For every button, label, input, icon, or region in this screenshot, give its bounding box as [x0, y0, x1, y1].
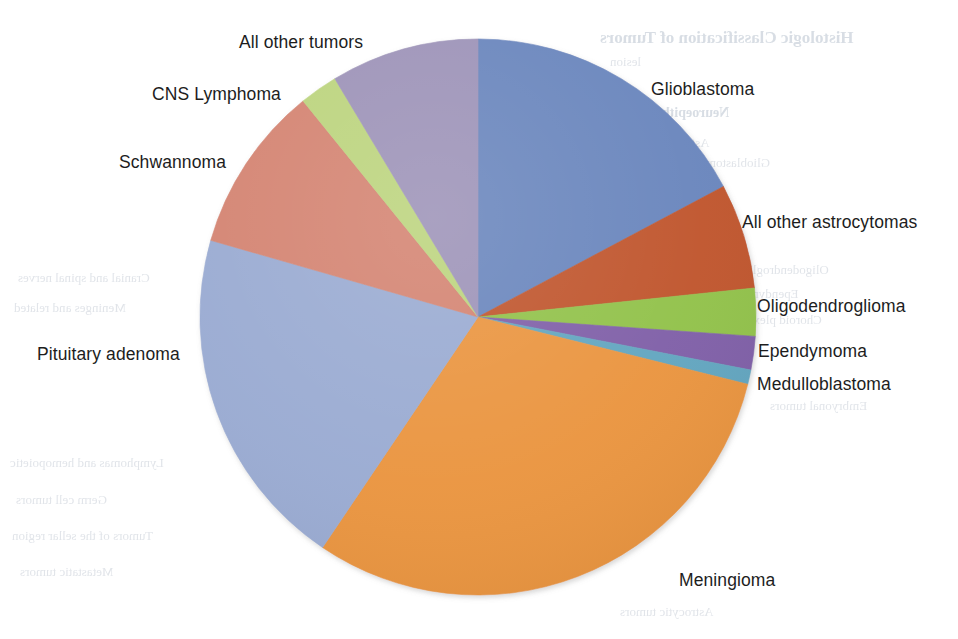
pie-chart: Glioblastoma All other astrocytomas Olig…: [0, 0, 958, 639]
pie-label-all-other-astrocytomas: All other astrocytomas: [742, 212, 917, 233]
pie-label-pituitary-adenoma: Pituitary adenoma: [37, 344, 180, 365]
pie-label-medulloblastoma: Medulloblastoma: [757, 374, 891, 395]
pie-label-cns-lymphoma: CNS Lymphoma: [152, 84, 281, 105]
pie-sheen-overlay: [200, 39, 756, 595]
pie-label-all-other-tumors: All other tumors: [239, 32, 363, 53]
pie-label-oligodendroglioma: Oligodendroglioma: [757, 296, 906, 317]
pie-label-glioblastoma: Glioblastoma: [651, 79, 754, 100]
pie-label-ependymoma: Ependymoma: [758, 341, 867, 362]
pie-chart-svg: [0, 0, 958, 639]
pie-label-meningioma: Meningioma: [679, 570, 775, 591]
pie-label-schwannoma: Schwannoma: [119, 152, 226, 173]
